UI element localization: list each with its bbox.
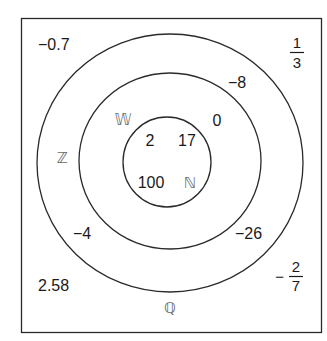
rational-member: −0.7 [38, 36, 70, 53]
whole-member: 0 [213, 112, 222, 129]
fraction-sign: − [275, 268, 284, 285]
natural-member: 17 [178, 132, 196, 149]
whole-numbers-label: 𝕎 [115, 111, 132, 129]
natural-member: 100 [138, 174, 165, 191]
natural-numbers-circle [123, 117, 211, 207]
integer-member: −4 [73, 225, 91, 242]
natural-numbers-label: ℕ [184, 174, 196, 192]
fraction-negative-two-sevenths: − 2 7 [275, 258, 303, 294]
rational-member: 2.58 [38, 277, 69, 294]
number-sets-diagram: −0.7 2.58 1 3 − 2 7 ℚ ℤ −8 −4 −26 𝕎 0 2 … [0, 0, 327, 341]
fraction-denominator: 7 [292, 277, 300, 294]
whole-numbers-circle [79, 73, 261, 249]
natural-member: 2 [146, 132, 155, 149]
integer-member: −26 [235, 225, 262, 242]
integers-label: ℤ [56, 149, 67, 167]
fraction-numerator: 2 [292, 258, 300, 275]
fraction-one-third: 1 3 [290, 34, 304, 71]
rationals-label: ℚ [164, 299, 176, 317]
integer-member: −8 [228, 74, 246, 91]
fraction-denominator: 3 [293, 54, 301, 71]
fraction-numerator: 1 [293, 34, 301, 51]
